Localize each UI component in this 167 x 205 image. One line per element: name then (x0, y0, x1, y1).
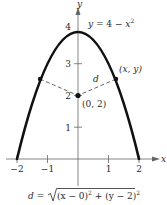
point-left (38, 77, 42, 81)
y-axis-label: y (76, 0, 83, 9)
point-variable (114, 77, 118, 81)
x-tick-label-1: 1 (106, 164, 112, 174)
distance-line-left (40, 79, 78, 96)
y-tick-label-1: 1 (65, 123, 71, 133)
x-axis-label: x (161, 154, 166, 164)
svg-text:(x − 0)2 + (y − 2)2: (x − 0)2 + (y − 2)2 (57, 189, 140, 201)
y-tick-label-3: 3 (65, 59, 71, 69)
x-axis-arrow-icon (152, 157, 160, 162)
formula-plus: + (92, 191, 105, 201)
curve-equation-label: y = 4 − x2 (87, 17, 134, 29)
point-fixed (75, 93, 80, 98)
curve-equation-exp: 2 (130, 17, 134, 24)
y-tick-label-4: 4 (65, 22, 71, 32)
point-variable-label: (x, y) (119, 64, 142, 74)
x-tick-label-neg2: −2 (10, 164, 23, 174)
formula-term2: (y − 2) (105, 191, 136, 201)
x-tick-label-neg1: −1 (41, 164, 54, 174)
svg-text:d =: d = (28, 191, 44, 201)
formula-exp2: 2 (136, 189, 140, 196)
parabola-diagram: x y −2 −1 1 2 1 2 3 4 y = 4 − x2 (x, y) … (0, 0, 167, 205)
point-fixed-label: (0, 2) (82, 99, 106, 109)
formula-term1: (x − 0) (57, 191, 88, 201)
distance-label: d (93, 74, 99, 84)
distance-formula: d = (x − 0)2 + (y − 2)2 (28, 189, 140, 202)
curve-equation-rest: = 4 − (93, 19, 125, 29)
x-tick-label-2: 2 (136, 164, 142, 174)
